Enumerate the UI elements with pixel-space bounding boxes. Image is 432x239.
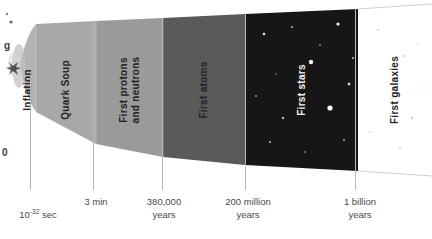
epoch-label-first-protons-and-neutrons: First protons and neutrons (118, 57, 142, 124)
axis-label-380000-years: 380,000 years (147, 196, 181, 222)
epoch-label-first-stars: First stars (296, 64, 308, 116)
epoch-first-galaxies: First galaxies (358, 0, 432, 180)
epoch-inflation: Inflation (20, 0, 36, 180)
cosmic-timeline-figure: Inflation Quark Soup First protons and n… (0, 0, 432, 239)
axis-label-unit: sec (39, 209, 56, 220)
axis-tick-1 (30, 76, 31, 190)
epoch-label-first-atoms: First atoms (198, 61, 210, 118)
expanding-universe-cone: Inflation Quark Soup First protons and n… (0, 0, 432, 180)
epoch-first-stars: First stars (245, 0, 358, 180)
axis-tick-5 (355, 9, 356, 190)
epoch-label-quark-soup: Quark Soup (60, 60, 72, 120)
axis-tick-3 (162, 18, 163, 190)
epoch-quark-soup: Quark Soup (36, 0, 96, 180)
epoch-first-atoms: First atoms (163, 0, 245, 180)
axis-label-1-billion-years: 1 billion years (344, 196, 376, 222)
epoch-label-inflation: Inflation (22, 69, 34, 111)
axis-label-200-million-years: 200 million years (225, 196, 270, 222)
epoch-label-first-galaxies: First galaxies (389, 56, 401, 124)
axis-label-3-min: 3 min (84, 196, 107, 209)
axis-label-exponent: -32 (30, 208, 39, 215)
epoch-first-protons-and-neutrons: First protons and neutrons (96, 0, 163, 180)
axis-label-mantissa: 10 (19, 209, 30, 220)
axis-tick-2 (93, 21, 94, 190)
axis-tick-4 (245, 14, 246, 190)
axis-label-inflation-end: 10-32 sec (19, 196, 56, 222)
cropped-fragment-0: 0 (2, 147, 8, 158)
cropped-fragment-g: g (4, 40, 10, 51)
